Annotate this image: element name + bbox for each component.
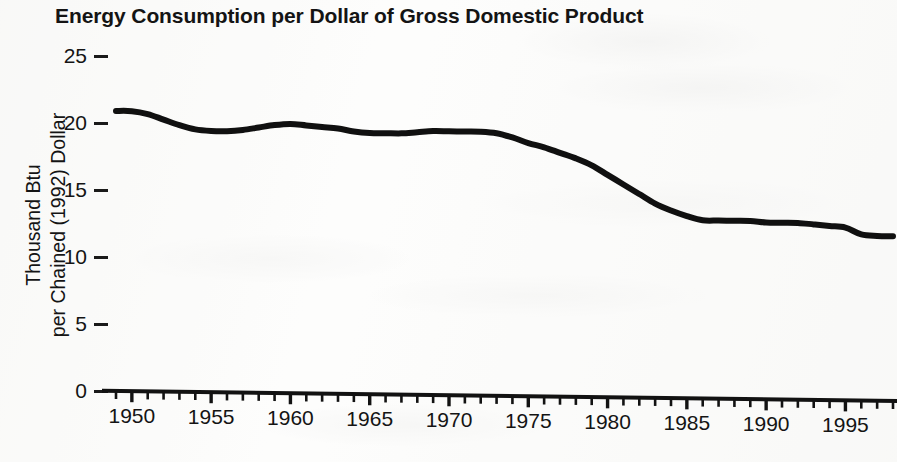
x-tick-label-1975: 1975 (505, 409, 552, 433)
x-tick-label-1960: 1960 (267, 406, 314, 430)
x-tick-label-1955: 1955 (188, 405, 235, 429)
x-tick-label-1965: 1965 (346, 407, 393, 431)
x-tick-label-1990: 1990 (743, 412, 790, 436)
x-tick-label-1995: 1995 (822, 413, 869, 437)
x-tick-label-1985: 1985 (663, 411, 710, 435)
x-tick-label-1950: 1950 (108, 404, 155, 428)
x-tick-label-1980: 1980 (584, 410, 631, 434)
x-tick-label-1970: 1970 (426, 408, 473, 432)
x-axis-tick-labels: 1950195519601965197019751980198519901995 (0, 0, 897, 462)
